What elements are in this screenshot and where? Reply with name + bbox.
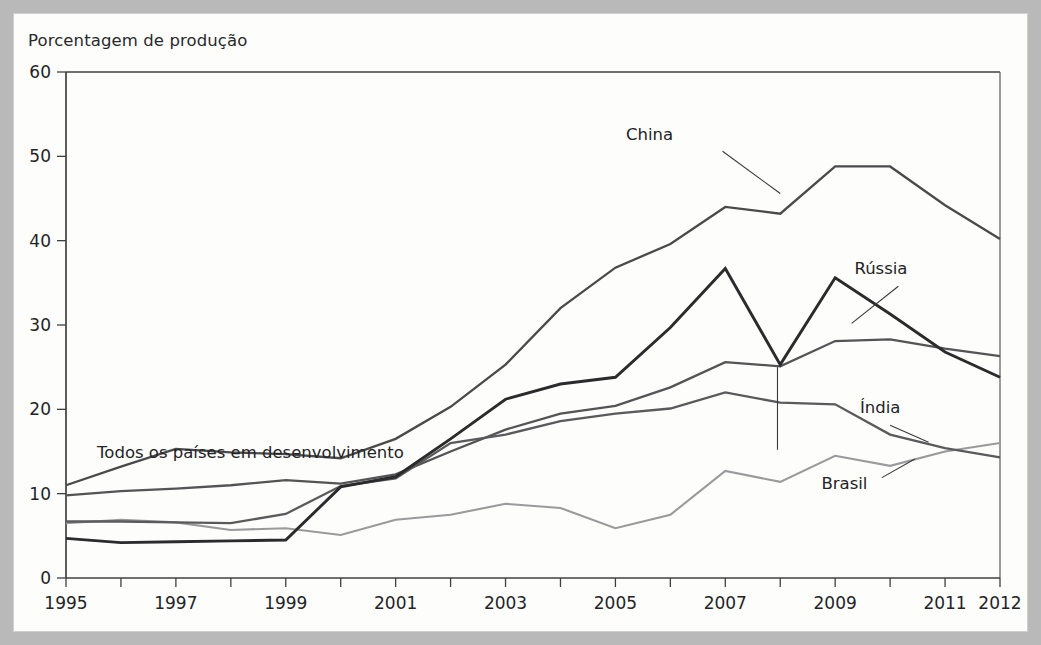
- chart-panel: Porcentagem de produção 0102030405060199…: [14, 14, 1027, 631]
- line-chart: 0102030405060199519971999200120032005200…: [14, 14, 1027, 631]
- x-axis-tick-label: 2011: [923, 593, 966, 613]
- y-axis-tick-label: 50: [29, 146, 51, 166]
- series-annotation-china: China: [626, 125, 673, 144]
- series-annotation-todos-os-pa-ses-em-desenvolvimento: Todos os países em desenvolvimento: [96, 443, 404, 462]
- series-annotation-ndia: Índia: [860, 398, 901, 417]
- y-axis-tick-label: 60: [29, 62, 51, 82]
- y-axis-tick-label: 20: [29, 399, 51, 419]
- x-axis-tick-label: 2003: [484, 593, 527, 613]
- series-annotation-brasil: Brasil: [821, 474, 867, 493]
- x-axis-tick-label: 2009: [814, 593, 857, 613]
- series-line-china: [66, 166, 1000, 485]
- y-axis-tick-label: 40: [29, 231, 51, 251]
- y-axis-tick-label: 10: [29, 484, 51, 504]
- x-axis-tick-label: 1995: [44, 593, 87, 613]
- x-axis-tick-label: 2012: [978, 593, 1021, 613]
- leader-line-brasil: [882, 459, 915, 478]
- x-axis-tick-label: 2001: [374, 593, 417, 613]
- x-axis-tick-label: 2007: [704, 593, 747, 613]
- x-axis-tick-label: 1999: [264, 593, 307, 613]
- series-annotation-r-ssia: Rússia: [854, 259, 907, 278]
- x-axis-tick-label: 1997: [154, 593, 197, 613]
- x-axis-tick-label: 2005: [594, 593, 637, 613]
- y-axis-tick-label: 0: [40, 568, 51, 588]
- y-axis-tick-label: 30: [29, 315, 51, 335]
- leader-line-china: [723, 151, 781, 193]
- figure-container: Porcentagem de produção 0102030405060199…: [0, 0, 1041, 645]
